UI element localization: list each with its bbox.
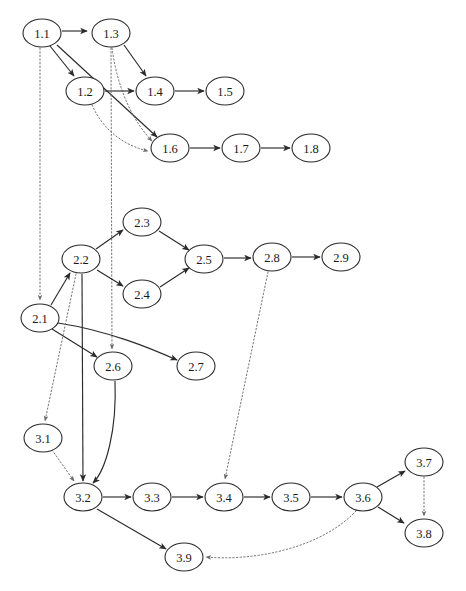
node-3.2[interactable]: 3.2: [64, 483, 102, 511]
node-3.5[interactable]: 3.5: [272, 483, 310, 511]
node-3.6[interactable]: 3.6: [344, 483, 382, 511]
node-shape-2.9[interactable]: [322, 243, 360, 271]
node-2.4[interactable]: 2.4: [123, 280, 161, 308]
node-2.8[interactable]: 2.8: [253, 243, 291, 271]
node-shape-1.4[interactable]: [136, 77, 174, 105]
edge-3.6-to-3.9: [206, 511, 356, 558]
edge-2.1-to-2.2: [51, 273, 70, 305]
node-shape-2.3[interactable]: [123, 208, 161, 236]
node-3.8[interactable]: 3.8: [405, 519, 443, 547]
edge-2.8-to-3.4: [225, 272, 268, 479]
graph-canvas: 1.11.21.31.41.51.61.71.82.12.22.32.42.52…: [0, 0, 466, 591]
node-shape-1.6[interactable]: [151, 134, 189, 162]
node-shape-3.6[interactable]: [344, 483, 382, 511]
node-shape-1.2[interactable]: [66, 77, 104, 105]
node-3.9[interactable]: 3.9: [165, 543, 203, 571]
node-2.1[interactable]: 2.1: [21, 304, 59, 332]
node-shape-1.5[interactable]: [206, 77, 244, 105]
node-2.5[interactable]: 2.5: [185, 245, 223, 273]
node-shape-2.1[interactable]: [21, 304, 59, 332]
node-1.8[interactable]: 1.8: [292, 134, 330, 162]
edge-2.2-to-2.4: [97, 270, 123, 286]
edge-3.1-to-3.2: [52, 450, 74, 481]
edge-2.2-to-2.3: [96, 230, 123, 249]
node-1.2[interactable]: 1.2: [66, 77, 104, 105]
node-shape-2.6[interactable]: [94, 352, 132, 380]
node-3.7[interactable]: 3.7: [405, 448, 443, 476]
edge-2.2-to-3.1: [45, 274, 76, 421]
edge-2.3-to-2.5: [159, 231, 189, 250]
node-shape-1.3[interactable]: [92, 19, 130, 47]
node-3.3[interactable]: 3.3: [133, 483, 171, 511]
node-1.6[interactable]: 1.6: [151, 134, 189, 162]
node-1.1[interactable]: 1.1: [23, 19, 61, 47]
node-2.6[interactable]: 2.6: [94, 352, 132, 380]
edge-3.6-to-3.7: [377, 471, 405, 487]
node-shape-3.5[interactable]: [272, 483, 310, 511]
node-shape-2.4[interactable]: [123, 280, 161, 308]
edge-1.3-to-2.6: [111, 48, 112, 349]
node-1.4[interactable]: 1.4: [136, 77, 174, 105]
edge-2.1-to-2.6: [52, 329, 97, 357]
node-shape-2.2[interactable]: [62, 245, 100, 273]
edge-2.2-to-3.2: [82, 274, 83, 481]
node-shape-3.4[interactable]: [205, 483, 243, 511]
edge-3.6-to-3.8: [378, 507, 404, 523]
node-shape-2.5[interactable]: [185, 245, 223, 273]
nodes-layer: 1.11.21.31.41.51.61.71.82.12.22.32.42.52…: [21, 19, 443, 571]
node-shape-3.3[interactable]: [133, 483, 171, 511]
edge-2.6-to-3.2: [93, 381, 115, 483]
node-shape-1.8[interactable]: [292, 134, 330, 162]
node-1.3[interactable]: 1.3: [92, 19, 130, 47]
node-shape-2.7[interactable]: [177, 352, 215, 380]
node-2.7[interactable]: 2.7: [177, 352, 215, 380]
node-1.5[interactable]: 1.5: [206, 77, 244, 105]
edge-1.3-to-1.4: [124, 45, 146, 76]
node-shape-3.9[interactable]: [165, 543, 203, 571]
node-3.1[interactable]: 3.1: [24, 424, 62, 452]
node-shape-3.1[interactable]: [24, 424, 62, 452]
node-2.2[interactable]: 2.2: [62, 245, 100, 273]
node-shape-3.2[interactable]: [64, 483, 102, 511]
node-3.4[interactable]: 3.4: [205, 483, 243, 511]
node-shape-2.8[interactable]: [253, 243, 291, 271]
node-shape-3.7[interactable]: [405, 448, 443, 476]
node-2.3[interactable]: 2.3: [123, 208, 161, 236]
node-1.7[interactable]: 1.7: [222, 134, 260, 162]
node-shape-1.7[interactable]: [222, 134, 260, 162]
edge-2.4-to-2.5: [160, 268, 189, 287]
edge-1.2-to-1.6: [92, 105, 148, 151]
edge-3.2-to-3.9: [97, 509, 166, 549]
node-shape-3.8[interactable]: [405, 519, 443, 547]
node-2.9[interactable]: 2.9: [322, 243, 360, 271]
node-shape-1.1[interactable]: [23, 19, 61, 47]
edges-layer: [40, 31, 424, 558]
graph-diagram: 1.11.21.31.41.51.61.71.82.12.22.32.42.52…: [0, 0, 466, 591]
edge-1.1-to-1.2: [50, 46, 74, 76]
